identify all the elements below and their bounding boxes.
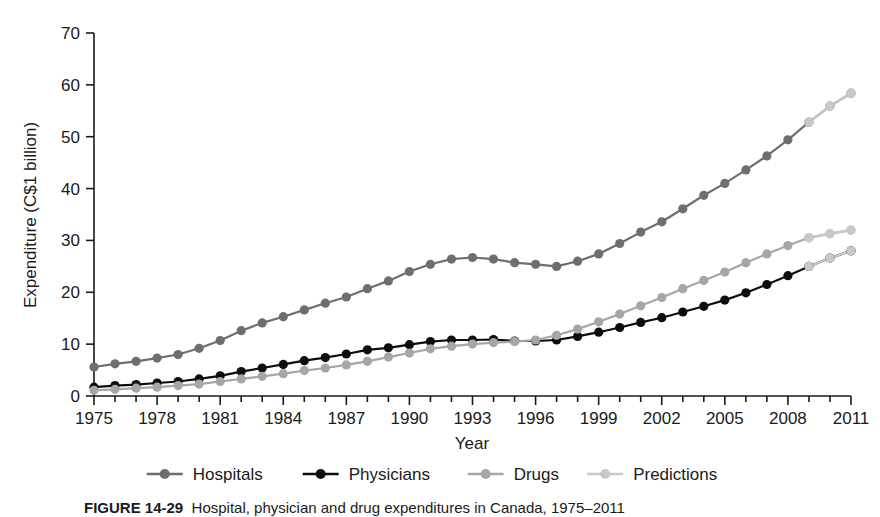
data-point-prediction	[804, 233, 813, 242]
data-point-hospitals	[657, 217, 666, 226]
legend-marker-icon	[160, 469, 170, 479]
legend-item-physicians[interactable]: Physicians	[303, 465, 430, 484]
data-point-hospitals	[258, 318, 267, 327]
data-point-hospitals	[678, 204, 687, 213]
y-tick-label: 0	[71, 387, 80, 406]
data-point-drugs	[531, 335, 540, 344]
data-point-drugs	[174, 381, 183, 390]
data-point-drugs	[89, 386, 98, 395]
x-tick-label: 1990	[391, 409, 429, 428]
y-tick-label: 10	[61, 335, 80, 354]
data-point-physicians	[300, 356, 309, 365]
data-point-hospitals	[405, 267, 414, 276]
x-tick-label: 1978	[138, 409, 176, 428]
y-tick-label: 60	[61, 76, 80, 95]
legend-marker-icon	[481, 469, 491, 479]
y-axis-title: Expenditure (C$1 billion)	[21, 122, 40, 308]
data-point-hospitals	[489, 255, 498, 264]
data-point-physicians	[783, 271, 792, 280]
x-axis-ticks: 1975197819811984198719901993199619992002…	[75, 396, 869, 428]
data-point-hospitals	[552, 262, 561, 271]
data-point-hospitals	[363, 284, 372, 293]
data-point-drugs	[132, 384, 141, 393]
x-tick-label: 1984	[264, 409, 302, 428]
data-point-physicians	[636, 318, 645, 327]
data-point-drugs	[426, 344, 435, 353]
data-point-hospitals	[384, 276, 393, 285]
figure-caption-body: Hospital, physician and drug expenditure…	[192, 499, 625, 516]
y-axis-ticks: 010203040506070	[61, 24, 94, 406]
legend-label: Physicians	[349, 465, 430, 484]
data-point-drugs	[741, 258, 750, 267]
y-tick-label: 40	[61, 180, 80, 199]
data-point-prediction	[846, 226, 855, 235]
chart-legend: HospitalsPhysiciansDrugsPredictions	[147, 465, 718, 484]
data-point-hospitals	[762, 151, 771, 160]
x-tick-label: 1993	[454, 409, 492, 428]
y-tick-label: 20	[61, 283, 80, 302]
data-point-physicians	[720, 296, 729, 305]
data-point-drugs	[720, 268, 729, 277]
series-line-hospitals	[94, 93, 851, 367]
legend-label: Hospitals	[193, 465, 263, 484]
legend-item-drugs[interactable]: Drugs	[468, 465, 559, 484]
data-point-hospitals	[89, 362, 98, 371]
data-point-physicians	[405, 340, 414, 349]
data-point-drugs	[258, 372, 267, 381]
data-point-drugs	[363, 357, 372, 366]
data-point-hospitals	[636, 228, 645, 237]
x-tick-label: 2008	[769, 409, 807, 428]
data-point-drugs	[216, 377, 225, 386]
x-tick-label: 2002	[643, 409, 681, 428]
data-point-hospitals	[720, 179, 729, 188]
data-point-drugs	[342, 360, 351, 369]
figure-caption-label: FIGURE 14-29	[84, 499, 183, 516]
y-tick-label: 30	[61, 231, 80, 250]
data-point-physicians	[678, 307, 687, 316]
data-point-drugs	[636, 301, 645, 310]
x-tick-label: 2005	[706, 409, 744, 428]
data-point-drugs	[762, 249, 771, 258]
data-point-physicians	[279, 360, 288, 369]
legend-item-predictions[interactable]: Predictions	[587, 465, 717, 484]
data-point-physicians	[363, 345, 372, 354]
x-axis-title: Year	[455, 434, 490, 453]
data-point-hospitals	[342, 292, 351, 301]
legend-label: Predictions	[633, 465, 717, 484]
data-point-prediction	[804, 262, 813, 271]
data-point-drugs	[573, 325, 582, 334]
data-point-physicians	[258, 363, 267, 372]
data-point-hospitals	[132, 357, 141, 366]
data-point-hospitals	[279, 312, 288, 321]
data-point-physicians	[342, 349, 351, 358]
data-point-drugs	[783, 241, 792, 250]
data-point-drugs	[447, 342, 456, 351]
data-point-drugs	[300, 366, 309, 375]
legend-label: Drugs	[514, 465, 559, 484]
data-point-drugs	[699, 276, 708, 285]
data-point-hospitals	[237, 326, 246, 335]
data-point-drugs	[110, 385, 119, 394]
data-point-drugs	[237, 374, 246, 383]
data-point-hospitals	[300, 305, 309, 314]
data-point-hospitals	[195, 344, 204, 353]
data-point-physicians	[384, 343, 393, 352]
data-point-hospitals	[573, 257, 582, 266]
data-point-hospitals	[426, 260, 435, 269]
data-point-physicians	[594, 328, 603, 337]
series-layer	[89, 89, 855, 395]
data-point-drugs	[279, 369, 288, 378]
data-point-hospitals	[174, 350, 183, 359]
y-tick-label: 70	[61, 24, 80, 43]
legend-item-hospitals[interactable]: Hospitals	[147, 465, 263, 484]
data-point-prediction	[846, 246, 855, 255]
x-tick-label: 1981	[201, 409, 239, 428]
data-point-hospitals	[615, 239, 624, 248]
data-point-physicians	[615, 323, 624, 332]
legend-marker-icon	[316, 469, 326, 479]
data-point-drugs	[552, 331, 561, 340]
data-point-drugs	[321, 363, 330, 372]
data-point-hospitals	[153, 354, 162, 363]
data-point-hospitals	[110, 359, 119, 368]
